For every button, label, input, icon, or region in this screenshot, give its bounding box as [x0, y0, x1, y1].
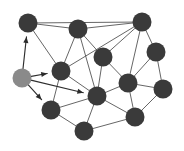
graph-node[interactable]	[94, 48, 113, 67]
graph-edge	[86, 23, 134, 28]
graph-node[interactable]	[88, 87, 107, 106]
graph-node[interactable]	[69, 20, 88, 39]
arrow-head-icon	[77, 89, 83, 94]
graph-node[interactable]	[52, 62, 71, 81]
graph-node[interactable]	[154, 80, 173, 99]
graph-figure	[0, 0, 184, 151]
graph-node[interactable]	[42, 101, 61, 120]
graph-node-highlighted[interactable]	[13, 69, 32, 88]
node-layer	[13, 13, 173, 141]
graph-edge	[130, 91, 134, 109]
graph-edge	[98, 65, 102, 88]
graph-edge	[141, 95, 158, 112]
graph-canvas	[0, 0, 184, 151]
graph-edge	[87, 103, 94, 123]
graph-edge	[133, 58, 150, 77]
graph-edge	[36, 24, 70, 28]
arrow-head-icon	[41, 72, 47, 77]
graph-edge	[83, 35, 97, 51]
graph-edge	[109, 63, 123, 77]
graph-edge	[59, 98, 90, 107]
graph-edge	[53, 79, 59, 103]
graph-node[interactable]	[119, 74, 138, 93]
graph-edge	[145, 29, 152, 45]
graph-edge	[104, 100, 128, 113]
graph-edge	[130, 30, 140, 75]
graph-node[interactable]	[147, 43, 166, 62]
graph-edge-directed	[30, 80, 84, 93]
graph-edge	[64, 36, 75, 63]
graph-edge	[136, 84, 155, 87]
graph-edge	[157, 60, 161, 81]
graph-edge	[58, 114, 78, 126]
graph-node[interactable]	[19, 14, 38, 33]
graph-edge	[80, 37, 95, 89]
graph-edge	[92, 119, 128, 129]
graph-edge	[33, 30, 57, 65]
graph-node[interactable]	[126, 108, 145, 127]
graph-edge	[68, 76, 91, 92]
graph-node[interactable]	[75, 122, 94, 141]
graph-node[interactable]	[133, 13, 152, 32]
graph-edge	[104, 86, 120, 93]
